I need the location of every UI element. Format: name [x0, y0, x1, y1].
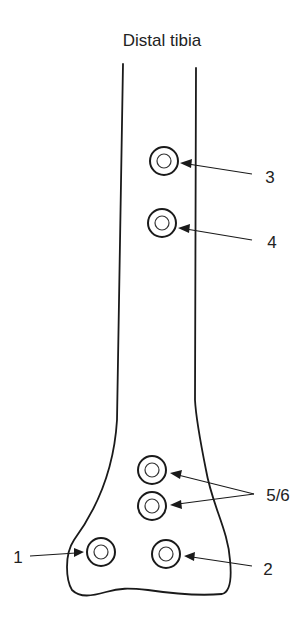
pin-2: [152, 540, 180, 568]
pin-6: [138, 492, 166, 520]
arrow-2: [184, 552, 252, 566]
pin-4: [148, 209, 176, 237]
arrow-1: [30, 548, 84, 557]
arrow-5: [170, 470, 254, 494]
pin-3: [150, 147, 178, 175]
label-4: 4: [267, 233, 276, 252]
pin-1: [87, 538, 115, 566]
label-3: 3: [265, 168, 274, 187]
label-5-6: 5/6: [266, 486, 290, 505]
diagram-title: Distal tibia: [123, 31, 202, 50]
pin-5: [138, 456, 166, 484]
arrow-4: [178, 224, 252, 240]
label-1: 1: [13, 548, 22, 567]
arrow-3: [180, 159, 252, 174]
distal-tibia-diagram: Distal tibia: [0, 0, 308, 630]
label-2: 2: [263, 560, 272, 579]
